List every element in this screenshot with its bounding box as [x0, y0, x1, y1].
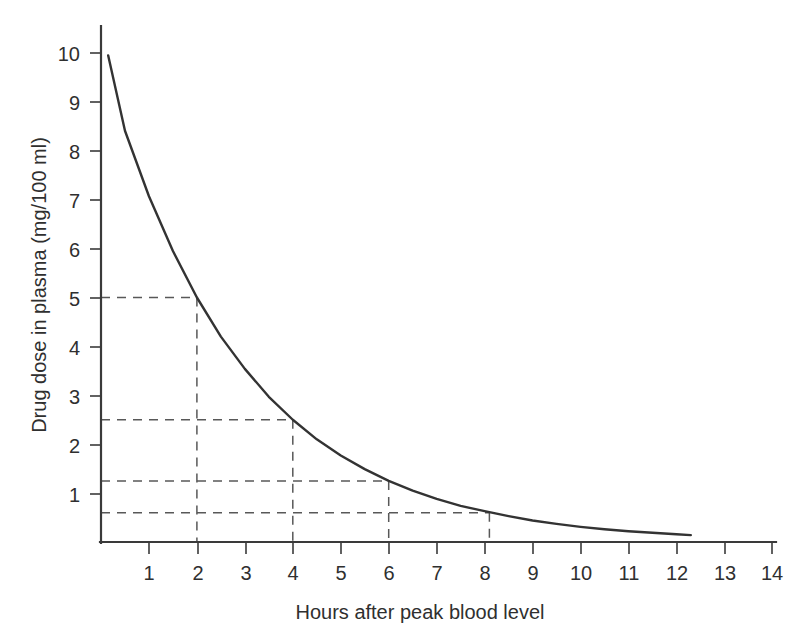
x-tick-label-11: 11 [619, 562, 640, 584]
guide-lines-vertical [197, 298, 489, 543]
guide-lines-horizontal [101, 298, 489, 513]
y-tick-label-6: 6 [69, 239, 80, 261]
x-tick-label-10: 10 [570, 562, 592, 584]
x-tick-label-1: 1 [143, 562, 154, 584]
decay-curve [108, 55, 691, 535]
y-tick-label-4: 4 [69, 337, 80, 359]
y-axis-ticks [90, 53, 101, 494]
x-tick-label-13: 13 [714, 562, 736, 584]
y-tick-label-3: 3 [69, 386, 80, 408]
y-tick-label-7: 7 [69, 190, 80, 212]
y-tick-label-5: 5 [69, 288, 80, 310]
drug-decay-line-chart: 10 9 8 7 6 5 4 3 2 1 1 2 3 4 [0, 0, 799, 639]
y-axis-title: Drug dose in plasma (mg/100 ml) [28, 137, 50, 433]
x-tick-label-12: 12 [666, 562, 688, 584]
x-tick-label-14: 14 [761, 562, 783, 584]
x-tick-label-9: 9 [527, 562, 538, 584]
x-tick-label-8: 8 [479, 562, 490, 584]
y-tick-label-1: 1 [69, 484, 80, 506]
y-tick-label-9: 9 [69, 92, 80, 114]
y-tick-label-2: 2 [69, 435, 80, 457]
x-tick-label-5: 5 [335, 562, 346, 584]
x-axis-title: Hours after peak blood level [295, 601, 544, 623]
y-tick-label-10: 10 [58, 43, 80, 65]
chart-figure: 10 9 8 7 6 5 4 3 2 1 1 2 3 4 [0, 0, 799, 639]
x-axis-ticks [149, 542, 772, 554]
x-tick-label-3: 3 [240, 562, 251, 584]
x-tick-label-7: 7 [431, 562, 442, 584]
x-tick-label-4: 4 [287, 562, 298, 584]
x-tick-label-2: 2 [192, 562, 203, 584]
y-tick-label-8: 8 [69, 141, 80, 163]
x-tick-label-6: 6 [383, 562, 394, 584]
